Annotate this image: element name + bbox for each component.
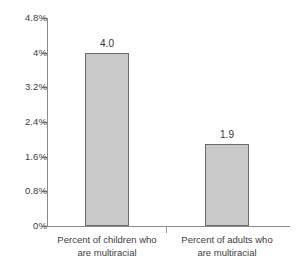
x-axis-category-label-line: are multiracial	[157, 247, 296, 260]
bar-value-label: 1.9	[205, 129, 249, 140]
y-axis-tick-label: 0.8%	[7, 185, 47, 196]
y-axis-tick-label: 4.8%	[7, 12, 47, 23]
y-axis-tick-label: 0%	[7, 220, 47, 231]
y-axis-tick-label: 1.6%	[7, 151, 47, 162]
y-axis-tick-label: 4%	[7, 47, 47, 58]
x-axis-category-label-line: are multiracial	[37, 247, 177, 260]
bar-chart: 0%0.8%1.6%2.4%3.2%4%4.8% 4.01.9 Percent …	[0, 0, 296, 267]
x-axis-category-label-line: Percent of adults who	[157, 234, 296, 247]
x-axis-category-label: Percent of adults whoare multiracial	[157, 234, 296, 259]
x-axis-line	[47, 226, 290, 227]
y-axis-line	[47, 18, 48, 227]
y-axis-tick-label: 3.2%	[7, 81, 47, 92]
bar	[205, 144, 249, 226]
bar-value-label: 4.0	[85, 38, 129, 49]
bar	[85, 53, 129, 226]
x-axis-category-label-line: Percent of children who	[37, 234, 177, 247]
y-axis-tick-label: 2.4%	[7, 116, 47, 127]
x-axis-category-label: Percent of children whoare multiracial	[37, 234, 177, 259]
x-axis-category-divider-tick	[166, 227, 167, 233]
